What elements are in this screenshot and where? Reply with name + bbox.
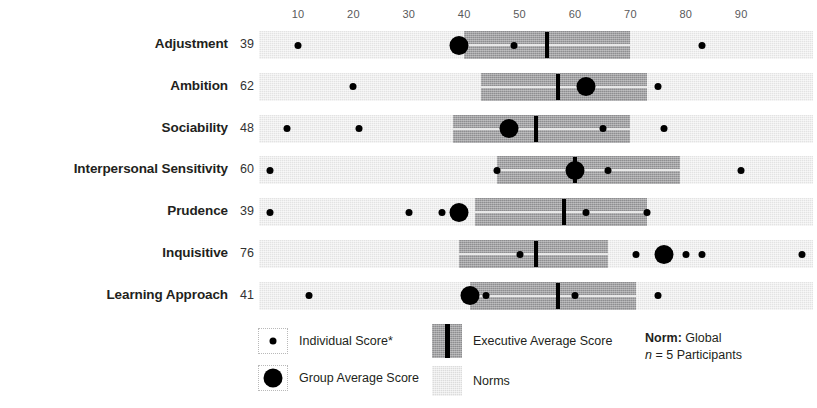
axis-tick-80: 80 — [679, 8, 692, 20]
individual-score-dot — [350, 83, 357, 90]
individual-score-dot — [267, 209, 274, 216]
row-score: 76 — [228, 246, 254, 260]
group-average-score-dot — [460, 286, 479, 305]
legend-label-norms: Norms — [473, 374, 510, 388]
chart-legend: Individual Score* Group Average Score Ex… — [0, 322, 817, 408]
norm-note-label: Norm: — [645, 331, 682, 345]
legend-label-executive-average-score: Executive Average Score — [473, 334, 612, 348]
row-label-learning-approach: Learning Approach — [0, 287, 228, 302]
axis-tick-40: 40 — [458, 8, 471, 20]
chart-axis: 102030405060708090 — [0, 8, 817, 26]
individual-score-dot — [439, 209, 446, 216]
individual-score-dot — [511, 42, 518, 49]
executive-average-line-icon — [445, 324, 450, 358]
norm-note-line-2: n = 5 Participants — [645, 347, 742, 364]
individual-score-dot — [738, 167, 745, 174]
norm-note-n-text: = 5 Participants — [655, 348, 742, 362]
individual-score-dot — [632, 251, 639, 258]
axis-tick-30: 30 — [402, 8, 415, 20]
individual-score-dot — [267, 167, 274, 174]
individual-score-dot — [699, 42, 706, 49]
norm-note-n-symbol: n — [645, 348, 652, 362]
individual-score-dot — [655, 292, 662, 299]
chart-row: Sociability48 — [0, 114, 817, 144]
row-score: 62 — [228, 79, 254, 93]
norm-note-line-1: Norm: Global — [645, 330, 742, 347]
individual-score-dot — [516, 251, 523, 258]
chart-row: Prudence39 — [0, 197, 817, 227]
group-average-score-dot — [566, 161, 585, 180]
chart-row: Ambition62 — [0, 72, 817, 102]
row-score: 39 — [228, 37, 254, 51]
chart-row: Learning Approach41 — [0, 281, 817, 311]
row-score: 48 — [228, 121, 254, 135]
executive-average-marker — [545, 32, 549, 58]
legend-item-group-average-score: Group Average Score — [258, 365, 419, 391]
individual-score-dot — [583, 209, 590, 216]
individual-score-dot — [599, 125, 606, 132]
individual-score-swatch-icon — [258, 328, 288, 354]
group-average-score-dot-icon — [264, 369, 283, 388]
individual-score-dot-icon — [270, 338, 277, 345]
legend-label-group-average-score: Group Average Score — [299, 371, 419, 385]
executive-average-marker — [556, 74, 560, 100]
norm-note-value: Global — [685, 331, 721, 345]
legend-item-executive-average-score: Executive Average Score — [432, 324, 612, 358]
executive-band-center-rule — [481, 86, 647, 88]
individual-score-dot — [605, 167, 612, 174]
row-label-sociability: Sociability — [0, 120, 228, 135]
executive-average-band-swatch-icon — [432, 324, 462, 358]
row-label-prudence: Prudence — [0, 203, 228, 218]
group-average-score-dot — [654, 245, 673, 264]
axis-tick-90: 90 — [735, 8, 748, 20]
row-label-adjustment: Adjustment — [0, 36, 228, 51]
executive-average-marker — [556, 283, 560, 309]
individual-score-dot — [572, 292, 579, 299]
norm-note: Norm: Global n = 5 Participants — [645, 330, 742, 364]
row-label-ambition: Ambition — [0, 78, 228, 93]
chart-row: Interpersonal Sensitivity60 — [0, 155, 817, 185]
row-score: 41 — [228, 288, 254, 302]
individual-score-dot — [283, 125, 290, 132]
executive-band-center-rule — [470, 295, 636, 297]
individual-score-dot — [295, 42, 302, 49]
axis-tick-70: 70 — [624, 8, 637, 20]
group-average-score-dot — [577, 77, 596, 96]
legend-label-individual-score: Individual Score* — [299, 334, 393, 348]
group-average-score-dot — [499, 119, 518, 138]
individual-score-dot — [644, 209, 651, 216]
row-label-interpersonal-sensitivity: Interpersonal Sensitivity — [0, 161, 228, 176]
axis-tick-10: 10 — [292, 8, 305, 20]
legend-item-norms: Norms — [432, 366, 510, 396]
executive-average-marker — [534, 241, 538, 267]
executive-average-marker — [562, 199, 566, 225]
axis-tick-20: 20 — [347, 8, 360, 20]
norms-band-swatch-icon — [432, 366, 462, 396]
executive-band-center-rule — [497, 169, 680, 171]
chart-row: Adjustment39 — [0, 30, 817, 60]
individual-score-dot — [660, 125, 667, 132]
axis-tick-60: 60 — [569, 8, 582, 20]
group-average-score-dot — [449, 36, 468, 55]
individual-score-dot — [682, 251, 689, 258]
individual-score-dot — [699, 251, 706, 258]
axis-tick-50: 50 — [513, 8, 526, 20]
executive-average-marker — [534, 116, 538, 142]
individual-score-dot — [306, 292, 313, 299]
row-label-inquisitive: Inquisitive — [0, 245, 228, 260]
group-average-score-dot — [449, 203, 468, 222]
individual-score-dot — [483, 292, 490, 299]
legend-item-individual-score: Individual Score* — [258, 328, 393, 354]
row-score: 39 — [228, 204, 254, 218]
chart-row: Inquisitive76 — [0, 239, 817, 269]
individual-score-dot — [799, 251, 806, 258]
individual-score-dot — [355, 125, 362, 132]
group-average-score-swatch-icon — [258, 365, 288, 391]
individual-score-dot — [494, 167, 501, 174]
individual-score-dot — [655, 83, 662, 90]
score-profile-chart: 102030405060708090 Adjustment39Ambition6… — [0, 0, 817, 320]
row-score: 60 — [228, 162, 254, 176]
individual-score-dot — [405, 209, 412, 216]
